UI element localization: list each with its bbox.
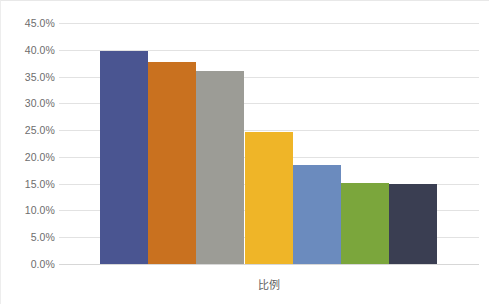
gridline bbox=[59, 264, 479, 265]
y-axis-tick-label: 35.0% bbox=[1, 71, 55, 83]
y-axis-tick-label: 40.0% bbox=[1, 44, 55, 56]
y-axis-tick-label: 0.0% bbox=[1, 258, 55, 270]
bar bbox=[341, 183, 389, 264]
y-axis-tick-label: 10.0% bbox=[1, 204, 55, 216]
x-axis-title: 比例 bbox=[59, 276, 479, 292]
y-axis-tick-label: 45.0% bbox=[1, 17, 55, 29]
bar bbox=[148, 62, 196, 264]
bar bbox=[196, 71, 244, 264]
y-axis-tick-label: 5.0% bbox=[1, 231, 55, 243]
bar bbox=[293, 165, 341, 264]
bar-chart: 45.0%40.0%35.0%30.0%25.0%20.0%15.0%10.0%… bbox=[0, 0, 489, 304]
y-axis-tick-label: 25.0% bbox=[1, 124, 55, 136]
bar bbox=[389, 184, 437, 264]
bar-series bbox=[59, 23, 479, 264]
y-axis-tick-label: 30.0% bbox=[1, 97, 55, 109]
bar bbox=[245, 132, 293, 264]
y-axis-tick-label: 20.0% bbox=[1, 151, 55, 163]
y-axis: 45.0%40.0%35.0%30.0%25.0%20.0%15.0%10.0%… bbox=[1, 23, 55, 264]
y-axis-tick-label: 15.0% bbox=[1, 178, 55, 190]
bar bbox=[100, 51, 148, 264]
